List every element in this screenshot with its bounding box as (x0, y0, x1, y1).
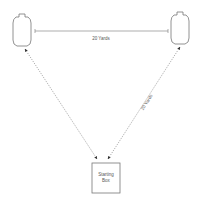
top-distance-label: 20 Yards (92, 36, 110, 41)
drill-diagram: 20 Yards 20 Yards Starting Box (0, 0, 202, 200)
right-distance-label: 20 Yards (140, 93, 154, 111)
right-target-icon (171, 12, 189, 44)
starting-box-label-line2: Box (102, 178, 111, 183)
left-target-icon (13, 14, 31, 46)
starting-box-label-line1: Starting (98, 172, 114, 177)
top-distance-line (35, 29, 168, 33)
left-dashed-arrow (25, 49, 97, 159)
